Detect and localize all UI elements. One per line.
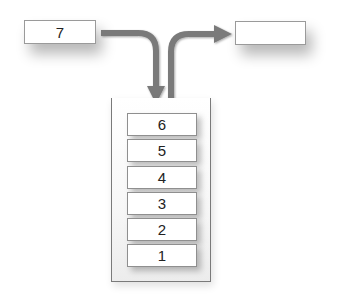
stack-item-label: 6: [158, 116, 166, 133]
stack-item: 3: [127, 192, 197, 215]
stack-item-label: 4: [158, 169, 166, 186]
push-arrow-icon: [101, 33, 165, 104]
pop-arrow-icon: [171, 25, 232, 104]
stack-item-label: 5: [158, 142, 166, 159]
stack-item: 1: [127, 244, 197, 267]
stack-item-label: 1: [158, 247, 166, 264]
stack-item-label: 2: [158, 221, 166, 238]
stack-item: 6: [127, 113, 197, 136]
stack-item: 5: [127, 139, 197, 162]
stack-item-label: 3: [158, 195, 166, 212]
stack-item: 2: [127, 218, 197, 241]
stack-item: 4: [127, 166, 197, 189]
